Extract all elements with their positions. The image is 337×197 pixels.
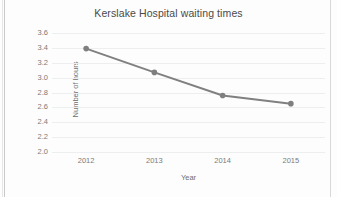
y-axis-tick-label: 3.6 (8, 29, 48, 37)
y-axis-tick-label: 3.4 (8, 44, 48, 52)
y-axis-tick-label: 2.8 (8, 89, 48, 97)
data-point-marker (220, 93, 226, 99)
line-series (52, 33, 325, 152)
x-axis-tick-label: 2012 (56, 156, 116, 165)
y-axis-tick-label: 2.4 (8, 118, 48, 126)
data-point-marker (288, 101, 294, 107)
y-axis-tick-label: 2.6 (8, 103, 48, 111)
page-border-right (330, 0, 331, 197)
gridline (52, 152, 325, 153)
data-point-marker (83, 46, 89, 52)
data-point-marker (152, 70, 158, 76)
y-axis-tick-label: 2.0 (8, 148, 48, 156)
chart-title: Kerslake Hospital waiting times (0, 7, 337, 19)
x-axis-tick-label: 2014 (193, 156, 253, 165)
x-axis-tick-label: 2015 (261, 156, 321, 165)
y-axis-tick-label: 3.2 (8, 59, 48, 67)
y-axis-tick-label: 3.0 (8, 74, 48, 82)
chart-figure: Kerslake Hospital waiting times 3.63.43.… (0, 0, 337, 197)
series-line (86, 49, 291, 104)
plot-area (52, 33, 325, 152)
x-axis-tick-label: 2013 (124, 156, 184, 165)
y-axis-tick-label: 2.2 (8, 133, 48, 141)
x-axis-title: Year (52, 173, 325, 182)
y-axis-tick-labels: 3.63.43.23.02.82.62.42.22.0 (0, 33, 48, 152)
x-axis-tick-labels: 2012201320142015 (52, 156, 325, 168)
